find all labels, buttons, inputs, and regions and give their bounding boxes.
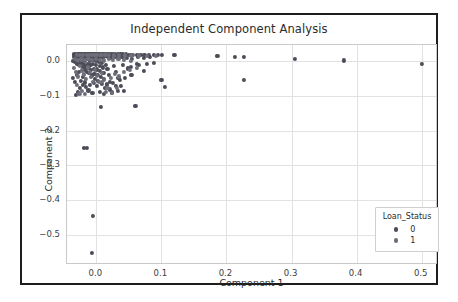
scatter-point <box>99 105 103 109</box>
scatter-point <box>123 76 127 80</box>
y-tick-label: 0.0 <box>28 55 60 65</box>
legend-marker-icon <box>394 238 398 242</box>
figure-container: Independent Component Analysis Component… <box>20 13 438 285</box>
scatter-point <box>172 53 176 57</box>
scatter-point <box>95 84 99 88</box>
scatter-point <box>100 80 104 84</box>
scatter-point <box>145 61 149 65</box>
scatter-point <box>129 59 133 63</box>
y-tick-label: −0.4 <box>28 194 60 204</box>
scatter-point <box>90 91 94 95</box>
scatter-point <box>105 67 109 71</box>
scatter-point <box>121 63 125 67</box>
x-tick-label: 0.2 <box>219 268 233 278</box>
gridline-horizontal-−0.2 <box>67 131 436 132</box>
chart-title: Independent Component Analysis <box>22 22 436 36</box>
legend-title: Loan_Status <box>381 212 433 221</box>
scatter-point <box>163 84 167 88</box>
legend-entry-label: 1 <box>410 236 420 245</box>
scatter-point <box>159 78 163 82</box>
x-tick-label: 0.0 <box>89 268 103 278</box>
y-tick-label: −0.1 <box>28 90 60 100</box>
legend-marker-icon <box>394 227 398 231</box>
scatter-point <box>84 77 88 81</box>
scatter-point <box>342 58 346 62</box>
gridline-horizontal-−0.3 <box>67 165 436 166</box>
scatter-point <box>122 70 126 74</box>
y-tick-label: −0.5 <box>28 229 60 239</box>
x-tick-label: 0.3 <box>284 268 298 278</box>
scatter-point <box>128 68 132 72</box>
scatter-point <box>112 64 116 68</box>
scatter-point <box>242 55 246 59</box>
gridline-vertical-0.2 <box>226 45 227 263</box>
scatter-point <box>119 84 123 88</box>
scatter-point <box>91 214 95 218</box>
y-tick-label: −0.3 <box>28 159 60 169</box>
gridline-vertical-0.3 <box>292 45 293 263</box>
scatter-point <box>135 66 139 70</box>
scatter-point <box>99 71 103 75</box>
scatter-point <box>85 146 89 150</box>
legend-entry-0[interactable]: 0 <box>381 224 433 235</box>
scatter-point <box>420 61 424 65</box>
gridline-vertical-0.4 <box>357 45 358 263</box>
scatter-point <box>151 61 155 65</box>
legend-entry-1[interactable]: 1 <box>381 235 433 246</box>
x-axis-label: Component 1 <box>66 277 437 288</box>
scatter-point <box>160 53 164 57</box>
scatter-point <box>118 78 122 82</box>
x-tick-label: 0.1 <box>154 268 168 278</box>
y-tick-label: −0.2 <box>28 125 60 135</box>
scatter-point <box>104 90 108 94</box>
scatter-point <box>112 72 116 76</box>
scatter-point <box>104 62 108 66</box>
scatter-point <box>122 89 126 93</box>
scatter-point <box>154 54 158 58</box>
scatter-point <box>233 54 237 58</box>
scatter-point <box>215 54 219 58</box>
gridline-horizontal-−0.4 <box>67 200 436 201</box>
scatter-point <box>142 69 146 73</box>
x-tick-label: 0.4 <box>349 268 363 278</box>
scatter-point <box>137 53 141 57</box>
x-tick-label: 0.5 <box>414 268 428 278</box>
legend-entries: 01 <box>381 224 433 246</box>
gridline-horizontal-−0.1 <box>67 96 436 97</box>
scatter-point <box>129 73 133 77</box>
scatter-point <box>109 76 113 80</box>
scatter-point <box>242 78 246 82</box>
scatter-point <box>133 104 137 108</box>
legend-entry-label: 0 <box>410 225 420 234</box>
legend: Loan_Status 01 <box>375 207 439 252</box>
scatter-point <box>90 251 94 255</box>
